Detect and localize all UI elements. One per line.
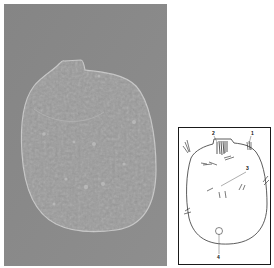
- label-3: 3: [246, 165, 249, 171]
- label-4: 4: [217, 254, 220, 260]
- ciliate-cell-image: [4, 4, 167, 266]
- oral-cilia-cluster: [217, 141, 227, 155]
- cirri-clusters: [183, 140, 269, 214]
- ciliate-schematic-drawing: 2 1 3 4: [179, 128, 272, 266]
- contractile-vacuole: [216, 228, 223, 235]
- schematic-panel: 2 1 3 4: [178, 127, 271, 265]
- label-2: 2: [212, 130, 215, 136]
- label-1: 1: [251, 130, 254, 136]
- micrograph-panel: [4, 4, 167, 266]
